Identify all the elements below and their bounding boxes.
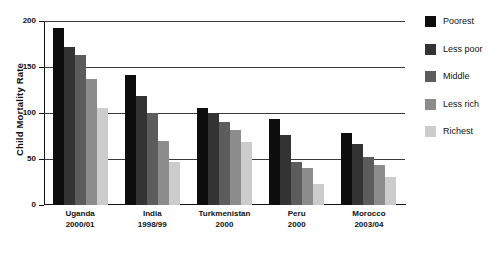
plot-area: 050100150200 bbox=[44, 21, 405, 205]
legend-label: Less poor bbox=[443, 43, 483, 56]
bar-group bbox=[125, 21, 180, 205]
legend-label: Richest bbox=[443, 125, 473, 138]
x-axis-label: Morocco2003/04 bbox=[333, 208, 405, 230]
x-axis-label-country: Morocco bbox=[352, 209, 385, 218]
bar bbox=[158, 141, 169, 205]
bar bbox=[86, 79, 97, 205]
bar bbox=[169, 162, 180, 205]
bar bbox=[341, 133, 352, 205]
bar-group bbox=[341, 21, 396, 205]
legend-swatch-icon bbox=[425, 99, 436, 110]
y-axis-tick bbox=[39, 205, 44, 206]
bar bbox=[136, 96, 147, 205]
bar bbox=[302, 168, 313, 205]
x-axis-label-year: 2000/01 bbox=[44, 219, 116, 230]
bar bbox=[280, 135, 291, 205]
x-axis-label-year: 2003/04 bbox=[333, 219, 405, 230]
x-axis-label: Peru2000 bbox=[261, 208, 333, 230]
bar bbox=[269, 119, 280, 205]
y-axis-tick-label: 50 bbox=[27, 155, 36, 163]
legend-item[interactable]: Less poor bbox=[425, 42, 499, 64]
x-axis-label-year: 2000 bbox=[261, 219, 333, 230]
y-axis-tick bbox=[39, 113, 44, 114]
y-axis-tick bbox=[39, 67, 44, 68]
x-axis-label: India1998/99 bbox=[116, 208, 188, 230]
y-axis-tick bbox=[39, 21, 44, 22]
bar bbox=[374, 165, 385, 205]
bar bbox=[313, 184, 324, 205]
bar bbox=[208, 113, 219, 205]
legend-label: Less rich bbox=[443, 98, 479, 111]
bar bbox=[363, 157, 374, 205]
y-axis-tick bbox=[39, 159, 44, 160]
legend-item[interactable]: Poorest bbox=[425, 14, 499, 36]
bar bbox=[291, 162, 302, 205]
x-axis-label-country: India bbox=[143, 209, 162, 218]
legend-item[interactable]: Richest bbox=[425, 124, 499, 146]
bar bbox=[197, 108, 208, 205]
bar bbox=[53, 28, 64, 205]
x-axis-label-country: Uganda bbox=[65, 209, 94, 218]
bar bbox=[97, 108, 108, 205]
chart-legend: PoorestLess poorMiddleLess richRichest bbox=[425, 14, 499, 152]
bar-group bbox=[53, 21, 108, 205]
x-axis-label-year: 1998/99 bbox=[116, 219, 188, 230]
legend-swatch-icon bbox=[425, 16, 436, 27]
legend-label: Poorest bbox=[443, 15, 474, 28]
bar-group bbox=[269, 21, 324, 205]
legend-label: Middle bbox=[443, 70, 470, 83]
legend-item[interactable]: Less rich bbox=[425, 97, 499, 119]
legend-item[interactable]: Middle bbox=[425, 69, 499, 91]
x-axis-labels: Uganda2000/01India1998/99Turkmenistan200… bbox=[44, 208, 405, 242]
bar-group bbox=[197, 21, 252, 205]
legend-swatch-icon bbox=[425, 71, 436, 82]
bar bbox=[64, 47, 75, 205]
bar bbox=[230, 130, 241, 205]
y-axis-tick-label: 100 bbox=[23, 109, 36, 117]
legend-swatch-icon bbox=[425, 126, 436, 137]
x-axis-label: Uganda2000/01 bbox=[44, 208, 116, 230]
bar bbox=[147, 113, 158, 205]
bar bbox=[241, 142, 252, 205]
bar bbox=[219, 122, 230, 205]
bar bbox=[352, 144, 363, 205]
y-axis-tick-label: 0 bbox=[32, 201, 36, 209]
y-axis-tick-label: 200 bbox=[23, 17, 36, 25]
bar bbox=[125, 75, 136, 205]
x-axis-label-country: Peru bbox=[288, 209, 306, 218]
x-axis-label: Turkmenistan2000 bbox=[188, 208, 260, 230]
legend-swatch-icon bbox=[425, 44, 436, 55]
x-axis-label-country: Turkmenistan bbox=[199, 209, 251, 218]
bar bbox=[75, 55, 86, 205]
bar bbox=[385, 177, 396, 205]
bar-chart: Child Mortality Rate 050100150200 Uganda… bbox=[0, 0, 499, 256]
x-axis-label-year: 2000 bbox=[188, 219, 260, 230]
y-axis-tick-label: 150 bbox=[23, 63, 36, 71]
